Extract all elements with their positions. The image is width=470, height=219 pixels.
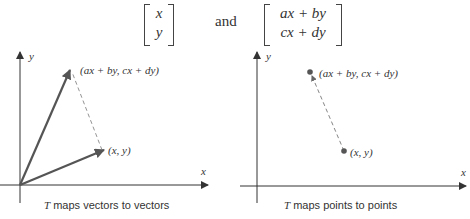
left-point-label: (x, y) xyxy=(108,144,131,156)
left-caption: T maps vectors to vectors xyxy=(44,199,169,211)
right-caption: T maps points to points xyxy=(284,199,397,211)
left-image-label: (ax + by, cx + dy) xyxy=(80,64,159,76)
caption-text: maps vectors to vectors xyxy=(50,199,169,211)
right-axis-y-label: y xyxy=(266,50,271,62)
left-axis-y-label: y xyxy=(29,50,34,62)
right-image-label: (ax + by, cx + dy) xyxy=(319,67,398,79)
point-image xyxy=(307,69,313,75)
dashed-connector-left xyxy=(72,72,102,150)
right-axis-x-label: x xyxy=(461,166,466,178)
diagram-canvas xyxy=(0,0,470,219)
right-point-label: (x, y) xyxy=(350,146,373,158)
caption-text: maps points to points xyxy=(290,199,397,211)
left-axis-x-label: x xyxy=(201,165,206,177)
point-xy xyxy=(341,148,347,154)
dashed-mapping-arrow xyxy=(312,76,344,151)
